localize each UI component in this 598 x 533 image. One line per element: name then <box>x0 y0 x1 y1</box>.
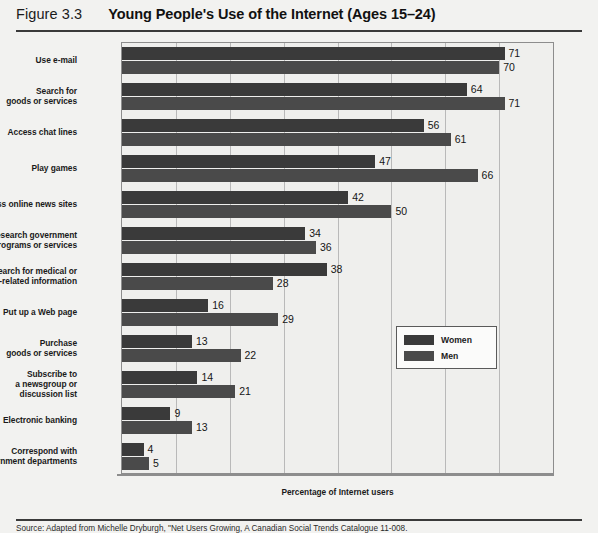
category-label-line: programs or services <box>0 240 77 250</box>
category-label: Play games <box>0 163 77 173</box>
bar-row: Put up a Web page1629 <box>0 294 598 330</box>
x-axis-origin-tick <box>117 474 122 476</box>
bar-row: Correspond withgovernment departments45 <box>0 438 598 474</box>
category-label-line: health-related information <box>0 276 77 286</box>
category-label-line: Subscribe to <box>0 369 77 379</box>
bar-value-women: 16 <box>212 299 224 312</box>
header-divider <box>16 30 582 32</box>
category-label-line: Purchase <box>0 338 77 348</box>
figure-title: Young People's Use of the Internet (Ages… <box>108 6 435 22</box>
bar-row: Search for medical orhealth-related info… <box>0 258 598 294</box>
figure-header: Figure 3.3 Young People's Use of the Int… <box>16 6 582 28</box>
bar-men <box>122 349 241 362</box>
category-label: Access online news sites <box>0 199 77 209</box>
bar-row: Purchasegoods or services1322 <box>0 330 598 366</box>
bar-value-men: 22 <box>245 349 257 362</box>
bar-value-women: 64 <box>471 83 483 96</box>
bar-value-women: 56 <box>428 119 440 132</box>
bar-value-men: 13 <box>196 421 208 434</box>
category-label: Purchasegoods or services <box>0 338 77 358</box>
bar-men <box>122 169 478 182</box>
figure-number: Figure 3.3 <box>16 6 82 22</box>
bar-value-men: 61 <box>455 133 467 146</box>
bar-value-men: 36 <box>320 241 332 254</box>
category-label-line: Access online news sites <box>0 199 77 209</box>
bar-men <box>122 61 499 74</box>
bar-rows: Use e-mail7170Search forgoods or service… <box>0 42 598 474</box>
bar-women <box>122 299 208 312</box>
bar-value-men: 21 <box>239 385 251 398</box>
bar-men <box>122 457 149 470</box>
bar-value-men: 70 <box>503 61 515 74</box>
category-label-line: Use e-mail <box>0 55 77 65</box>
category-label: Put up a Web page <box>0 307 77 317</box>
bar-women <box>122 119 424 132</box>
legend-swatch-women-icon <box>404 335 434 345</box>
bar-women <box>122 443 144 456</box>
category-label-line: Research government <box>0 230 77 240</box>
legend-item-women: Women <box>404 333 489 347</box>
category-label-line: Electronic banking <box>0 415 77 425</box>
bar-men <box>122 133 451 146</box>
bar-men <box>122 385 235 398</box>
category-label: Correspond withgovernment departments <box>0 446 77 466</box>
bar-value-women: 47 <box>379 155 391 168</box>
bar-row: Play games4766 <box>0 150 598 186</box>
category-label-line: Search for medical or <box>0 266 77 276</box>
bar-women <box>122 407 170 420</box>
bar-men <box>122 205 391 218</box>
bar-value-men: 29 <box>282 313 294 326</box>
bar-row: Access online news sites4250 <box>0 186 598 222</box>
legend-item-men: Men <box>404 349 489 363</box>
x-axis-line <box>121 474 554 476</box>
bar-women <box>122 227 305 240</box>
bar-row: Access chat lines5661 <box>0 114 598 150</box>
category-label-line: a newsgroup or <box>0 379 77 389</box>
bar-value-women: 42 <box>352 191 364 204</box>
category-label: Use e-mail <box>0 55 77 65</box>
bar-row: Use e-mail7170 <box>0 42 598 78</box>
bar-row: Subscribe toa newsgroup ordiscussion lis… <box>0 366 598 402</box>
bar-women <box>122 263 327 276</box>
bar-value-women: 14 <box>201 371 213 384</box>
bar-women <box>122 83 467 96</box>
category-label-line: goods or services <box>0 348 77 358</box>
bar-women <box>122 191 348 204</box>
category-label: Subscribe toa newsgroup ordiscussion lis… <box>0 369 77 400</box>
bar-value-women: 71 <box>509 47 521 60</box>
bar-value-women: 34 <box>309 227 321 240</box>
legend-label-women: Women <box>441 335 472 345</box>
category-label-line: Play games <box>0 163 77 173</box>
category-label-line: Correspond with <box>0 446 77 456</box>
bar-value-men: 66 <box>482 169 494 182</box>
bar-women <box>122 155 375 168</box>
category-label: Access chat lines <box>0 127 77 137</box>
category-label-line: Put up a Web page <box>0 307 77 317</box>
bar-value-women: 13 <box>196 335 208 348</box>
bar-men <box>122 421 192 434</box>
category-label: Search for medical orhealth-related info… <box>0 266 77 286</box>
bar-men <box>122 97 505 110</box>
category-label-line: Access chat lines <box>0 127 77 137</box>
category-label: Search forgoods or services <box>0 86 77 106</box>
chart-legend: Women Men <box>396 326 497 369</box>
figure-page: Figure 3.3 Young People's Use of the Int… <box>0 0 598 533</box>
chart-region: Use e-mail7170Search forgoods or service… <box>0 36 598 508</box>
bar-men <box>122 313 278 326</box>
bar-value-women: 9 <box>174 407 180 420</box>
bar-row: Search forgoods or services6471 <box>0 78 598 114</box>
bar-value-men: 5 <box>153 457 159 470</box>
bar-men <box>122 277 273 290</box>
bar-women <box>122 47 505 60</box>
bar-women <box>122 371 197 384</box>
bar-women <box>122 335 192 348</box>
bar-row: Research governmentprograms or services3… <box>0 222 598 258</box>
category-label-line: Search for <box>0 86 77 96</box>
category-label-line: government departments <box>0 456 77 466</box>
category-label-line: goods or services <box>0 96 77 106</box>
bar-value-women: 4 <box>148 443 154 456</box>
x-axis-title: Percentage of Internet users <box>121 487 554 497</box>
bar-row: Electronic banking913 <box>0 402 598 438</box>
legend-label-men: Men <box>441 351 458 361</box>
category-label: Research governmentprograms or services <box>0 230 77 250</box>
